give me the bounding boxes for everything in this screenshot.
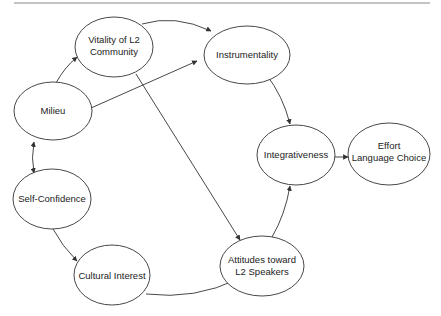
node-cultural: Cultural Interest <box>74 245 150 305</box>
node-attitudes-line1: Attitudes toward <box>228 254 296 265</box>
node-instrumentality-line1: Instrumentality <box>216 49 278 60</box>
node-instrumentality: Instrumentality <box>204 26 290 84</box>
node-effort-line2: Language Choice <box>352 152 426 163</box>
node-vitality-line1: Vitality of L2 <box>88 34 140 45</box>
node-selfconfidence-line1: Self-Confidence <box>18 193 86 204</box>
node-attitudes: Attitudes toward L2 Speakers <box>220 236 304 296</box>
edge-vitality-instrumentality <box>142 20 211 31</box>
node-integrativeness: Integrativeness <box>257 125 335 185</box>
diagram-canvas: Vitality of L2 Community Instrumentality… <box>0 0 441 316</box>
node-vitality-line2: Community <box>90 46 138 57</box>
edge-cultural-attitudes <box>146 279 238 295</box>
node-milieu: Milieu <box>14 82 92 140</box>
node-attitudes-line2: L2 Speakers <box>235 266 289 277</box>
node-vitality: Vitality of L2 Community <box>75 17 153 77</box>
node-selfconfidence: Self-Confidence <box>13 169 91 229</box>
node-effort: Effort Language Choice <box>348 123 430 185</box>
node-integrativeness-line1: Integrativeness <box>264 149 329 160</box>
edge-selfconfidence-cultural <box>53 229 77 261</box>
edge-milieu-vitality <box>56 57 77 83</box>
node-cultural-line1: Cultural Interest <box>78 270 145 281</box>
edge-attitudes-integrativeness <box>272 186 290 237</box>
node-milieu-line1: Milieu <box>41 105 66 116</box>
edge-milieu-selfconfidence <box>33 142 35 173</box>
edge-vitality-attitudes <box>136 74 240 240</box>
node-effort-line1: Effort <box>378 140 401 151</box>
edge-instrumentality-integrativeness <box>266 74 290 124</box>
